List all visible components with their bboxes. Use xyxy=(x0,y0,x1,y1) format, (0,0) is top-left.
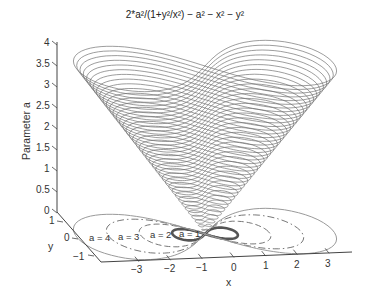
chart-title: 2*a²/(1+y²/x²) − a² − x² − y² xyxy=(0,9,370,20)
z-tick-1.5: 1.5 xyxy=(36,142,50,153)
z-tick-mark xyxy=(52,41,57,45)
z-tick-1: 1 xyxy=(44,163,50,174)
x-tick--2: −2 xyxy=(164,263,175,274)
floor-contours xyxy=(73,208,336,259)
y-tick-mark xyxy=(88,255,94,256)
z-tick-mark xyxy=(52,209,57,213)
contour-label-a1: a = 1 xyxy=(179,228,200,239)
z-tick-3.5: 3.5 xyxy=(36,58,50,69)
surface-level-curve xyxy=(202,229,209,230)
x-tick--3: −3 xyxy=(131,264,142,275)
y-axis-label: y xyxy=(48,240,53,252)
z-tick-mark xyxy=(52,146,57,150)
surface-level-curve xyxy=(159,166,251,184)
contour-label-a4: a = 4 xyxy=(89,232,110,243)
contour-label-a2: a = 2 xyxy=(150,229,171,240)
z-tick-3: 3 xyxy=(44,79,50,90)
surface-level-curve xyxy=(133,128,278,156)
y-tick--1: −1 xyxy=(73,251,84,262)
z-tick-0.5: 0.5 xyxy=(36,184,50,195)
x-tick-2: 2 xyxy=(294,259,300,270)
z-tick-mark xyxy=(52,62,57,66)
surface-level-curve xyxy=(198,224,211,227)
surface-plot xyxy=(0,0,370,300)
z-tick-mark xyxy=(52,125,57,129)
floor-contour-a4 xyxy=(73,208,336,259)
x-axis-label: x xyxy=(226,276,231,288)
x-axis-line xyxy=(101,252,352,262)
y-tick-mark xyxy=(57,221,63,222)
z-axis-label: Parameter a xyxy=(20,102,32,160)
z-tick-mark xyxy=(52,188,57,192)
lemniscate-surface xyxy=(73,40,336,230)
z-tick-4: 4 xyxy=(44,37,50,48)
x-tick-3: 3 xyxy=(325,258,331,269)
x-tick-0: 0 xyxy=(231,262,237,273)
y-tick-1: 1 xyxy=(49,215,55,226)
z-tick-mark xyxy=(52,104,57,108)
z-tick-mark xyxy=(52,83,57,87)
contour-label-a3: a = 3 xyxy=(118,231,139,242)
z-tick-2: 2 xyxy=(44,121,50,132)
z-tick-mark xyxy=(52,167,57,171)
x-tick--1: −1 xyxy=(196,262,207,273)
y-tick-0: 0 xyxy=(64,232,70,243)
x-tick-1: 1 xyxy=(263,260,269,271)
z-tick-2.5: 2.5 xyxy=(36,100,50,111)
